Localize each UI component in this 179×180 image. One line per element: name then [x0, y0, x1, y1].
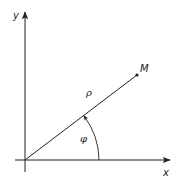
radius-vector — [25, 75, 137, 160]
polar-diagram: y x M ρ φ — [0, 0, 179, 180]
point-label: M — [140, 63, 149, 74]
x-axis-label: x — [162, 167, 169, 178]
y-axis-label: y — [12, 10, 20, 21]
radius-label: ρ — [85, 87, 92, 98]
point-m — [135, 73, 138, 76]
angle-label: φ — [80, 133, 87, 144]
